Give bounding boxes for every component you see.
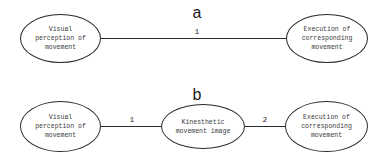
edge-label-a-1: 1 xyxy=(195,28,200,36)
node-text: Kinesthetic movement image xyxy=(176,118,231,136)
node-text: Execution of corresponding movement xyxy=(302,25,353,52)
edge-label-b-1: 1 xyxy=(130,116,135,124)
edge-b-2 xyxy=(244,126,286,127)
node-b-kinesthetic-image: Kinesthetic movement image xyxy=(161,104,245,149)
node-a-execution: Execution of corresponding movement xyxy=(286,14,368,63)
node-text: Visual perception of movement xyxy=(35,25,86,52)
diagram-canvas: a 1 Visual perception of movement Execut… xyxy=(0,0,388,158)
edge-a-1 xyxy=(100,38,286,39)
node-text: Execution of corresponding movement xyxy=(301,113,352,140)
edge-label-b-2: 2 xyxy=(263,116,268,124)
panel-label-b: b xyxy=(193,87,202,103)
node-b-visual-perception: Visual perception of movement xyxy=(20,101,101,152)
edge-b-1 xyxy=(100,126,162,127)
panel-label-a: a xyxy=(193,5,202,21)
node-b-execution: Execution of corresponding movement xyxy=(285,101,368,152)
node-a-visual-perception: Visual perception of movement xyxy=(20,14,101,63)
node-text: Visual perception of movement xyxy=(35,113,86,140)
